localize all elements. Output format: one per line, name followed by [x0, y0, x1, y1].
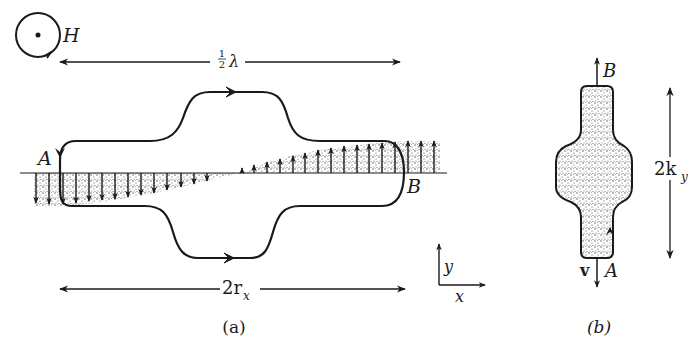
fermi-surface-cross-section [556, 86, 632, 258]
coordinate-axes: y x [439, 244, 485, 306]
positive-distribution-region [240, 141, 440, 173]
svg-text:λ: λ [228, 52, 239, 71]
svg-text:x: x [455, 287, 464, 306]
half-wavelength-dimension: 1 2 λ [60, 48, 400, 71]
panel-b: B v A 2k y (b) [556, 58, 688, 337]
orbit-direction-arrow-left [55, 148, 65, 158]
negative-distribution-region [34, 173, 240, 207]
field-out-of-page-icon [16, 13, 60, 58]
svg-text:x: x [243, 289, 250, 303]
point-B-label-b: B [602, 60, 616, 81]
caption-b: (b) [587, 317, 611, 337]
point-A-label: A [36, 147, 52, 169]
svg-text:1: 1 [219, 48, 225, 59]
svg-text:2r: 2r [222, 277, 242, 298]
ky-dimension: 2k y [654, 88, 688, 258]
point-B-label: B [406, 175, 421, 197]
caption-a: (a) [222, 317, 245, 337]
svg-text:y: y [680, 170, 688, 184]
point-A-label-b: A [603, 260, 618, 281]
field-label-H: H [62, 24, 80, 46]
figure-canvas: H 1 2 λ [0, 0, 697, 355]
orbit-width-dimension: 2r x [60, 277, 405, 303]
panel-a: H 1 2 λ [16, 13, 485, 337]
svg-text:2k: 2k [654, 158, 677, 179]
svg-text:y: y [443, 257, 454, 276]
svg-text:2: 2 [219, 59, 225, 70]
velocity-label: v [579, 261, 590, 280]
